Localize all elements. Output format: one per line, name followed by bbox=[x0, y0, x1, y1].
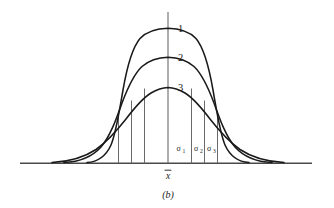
sigma-symbol-1: σ bbox=[177, 144, 182, 153]
curve-label-3: 3 bbox=[178, 82, 183, 93]
mean-label-group: x bbox=[165, 170, 172, 180]
curve-label-2: 2 bbox=[178, 52, 183, 63]
curve-label-1: 1 bbox=[178, 23, 183, 34]
sigma-symbol-2: σ bbox=[194, 144, 199, 153]
sigma-label-1: σ 1 bbox=[177, 144, 186, 154]
x-bar-label: x bbox=[165, 171, 171, 181]
figure-container: 1 2 3 σ 1 σ 2 σ 3 x (b) bbox=[0, 0, 334, 208]
sigma-subscript-2: 2 bbox=[200, 148, 203, 154]
sigma-label-2: σ 2 bbox=[194, 144, 203, 154]
figure-caption: (b) bbox=[162, 189, 174, 201]
normal-distribution-figure: 1 2 3 σ 1 σ 2 σ 3 x (b) bbox=[0, 0, 334, 208]
sigma-symbol-3: σ bbox=[207, 144, 212, 153]
sigma-label-3: σ 3 bbox=[207, 144, 216, 154]
sigma-subscript-1: 1 bbox=[183, 148, 186, 154]
sigma-subscript-3: 3 bbox=[213, 148, 216, 154]
